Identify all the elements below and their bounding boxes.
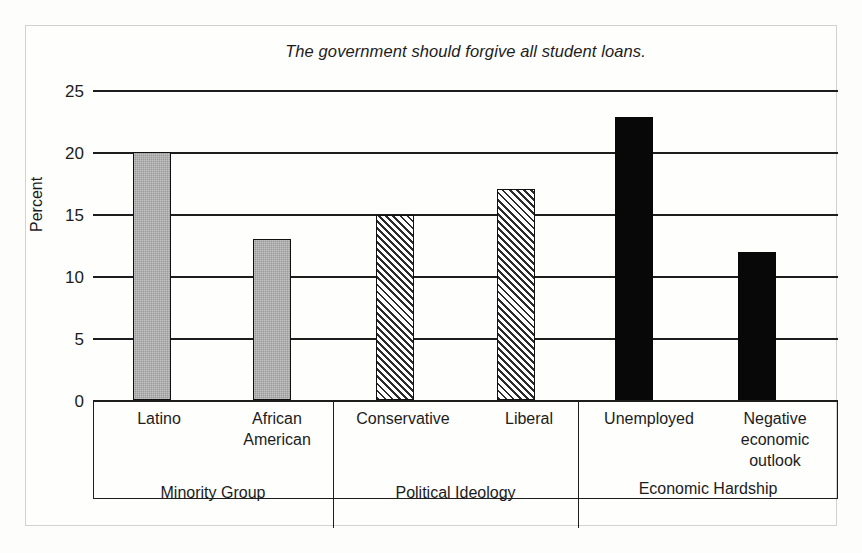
figure-container: The government should forgive all studen… [0, 0, 862, 553]
y-tick-25: 25 [65, 82, 84, 102]
category-label-negative-line1: Negative [712, 408, 838, 429]
category-label-latino: Latino [96, 408, 222, 429]
category-label-african-american-line1: African [214, 408, 340, 429]
bar-african-american [253, 239, 291, 400]
category-label-unemployed-text: Unemployed [586, 408, 712, 429]
category-label-african-american-line2: American [214, 429, 340, 450]
category-label-negative-line3: outlook [712, 450, 838, 471]
category-label-african-american: African American [214, 408, 340, 450]
y-tick-5: 5 [75, 330, 84, 350]
gridline-25: 25 [93, 90, 838, 92]
chart-title: The government should forgive all studen… [93, 42, 838, 61]
gridline-10: 10 [93, 276, 838, 278]
plot-area: 25 20 15 10 5 0 [93, 90, 838, 400]
group-label-minority: Minority Group [93, 484, 333, 502]
category-label-negative-outlook: Negative economic outlook [712, 408, 838, 471]
bar-liberal [497, 189, 535, 400]
category-label-latino-text: Latino [96, 408, 222, 429]
group-label-political: Political Ideology [333, 484, 578, 502]
category-label-liberal: Liberal [466, 408, 592, 429]
bar-negative-outlook [738, 252, 776, 400]
bar-latino [133, 152, 171, 400]
bar-unemployed [615, 117, 653, 400]
y-axis-title: Percent [28, 177, 46, 232]
bar-conservative [376, 215, 414, 400]
y-tick-15: 15 [65, 206, 84, 226]
category-label-liberal-text: Liberal [466, 408, 592, 429]
category-label-conservative-text: Conservative [340, 408, 466, 429]
y-tick-0: 0 [75, 392, 84, 412]
gridline-15: 15 [93, 214, 838, 216]
category-label-negative-line2: economic [712, 429, 838, 450]
y-tick-10: 10 [65, 268, 84, 288]
category-label-conservative: Conservative [340, 408, 466, 429]
gridline-5: 5 [93, 338, 838, 340]
y-tick-20: 20 [65, 144, 84, 164]
gridline-20: 20 [93, 152, 838, 154]
category-label-unemployed: Unemployed [586, 408, 712, 429]
group-label-economic: Economic Hardship [578, 480, 838, 498]
